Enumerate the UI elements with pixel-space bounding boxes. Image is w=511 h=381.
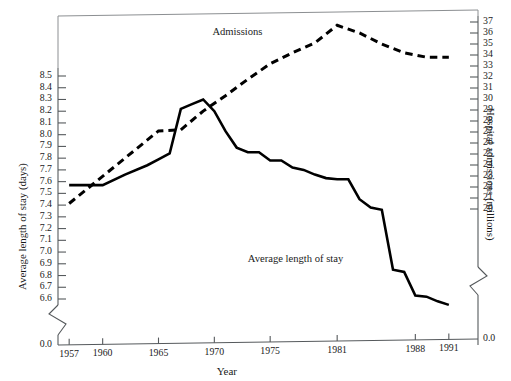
chart-container: 8.58.48.38.28.18.07.97.87.77.67.57.47.37…	[0, 0, 511, 381]
plot-frame-top	[58, 10, 478, 16]
chart-figure	[0, 0, 511, 381]
left-axis-break	[49, 305, 66, 335]
x-axis-spine	[58, 339, 478, 345]
right-axis-break	[470, 267, 487, 295]
series-line-average-length-of-stay	[69, 99, 449, 304]
series-line-admissions	[69, 25, 449, 203]
